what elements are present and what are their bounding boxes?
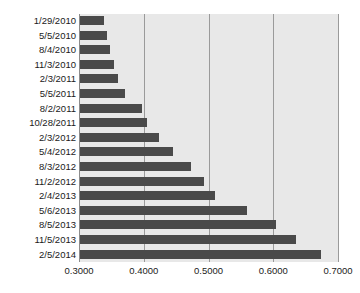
bar-chart: 1/29/20105/5/20108/4/201011/3/20102/3/20… bbox=[0, 0, 360, 293]
category-axis-label: 2/3/2011 bbox=[40, 73, 76, 85]
chart-title bbox=[0, 0, 360, 5]
bar bbox=[79, 162, 191, 171]
bar bbox=[79, 16, 104, 25]
bar bbox=[79, 235, 296, 244]
category-axis-label: 1/29/2010 bbox=[34, 15, 76, 27]
category-axis-label: 8/5/2013 bbox=[39, 219, 76, 231]
category-axis-label: 8/3/2012 bbox=[39, 161, 76, 173]
bar bbox=[79, 89, 125, 98]
gridline bbox=[338, 14, 339, 262]
category-axis-label: 8/4/2010 bbox=[39, 44, 76, 56]
bar bbox=[79, 74, 118, 83]
bar bbox=[79, 133, 159, 142]
bar bbox=[79, 147, 173, 156]
category-axis-label: 11/5/2013 bbox=[34, 234, 76, 246]
category-axis-label: 8/2/2011 bbox=[40, 103, 76, 115]
category-axis-label: 5/5/2010 bbox=[39, 30, 76, 42]
category-axis-label: 2/5/2014 bbox=[39, 249, 76, 261]
category-axis-label: 11/2/2012 bbox=[34, 176, 76, 188]
bar bbox=[79, 250, 321, 259]
category-axis-label: 10/28/2011 bbox=[29, 117, 76, 129]
value-axis-label: 0.4000 bbox=[129, 264, 158, 278]
category-axis: 1/29/20105/5/20108/4/201011/3/20102/3/20… bbox=[0, 14, 78, 262]
value-axis-label: 0.7000 bbox=[323, 264, 352, 278]
plot-area bbox=[79, 14, 338, 262]
value-axis-label: 0.6000 bbox=[259, 264, 288, 278]
bar bbox=[79, 220, 276, 229]
bar bbox=[79, 118, 147, 127]
bar bbox=[79, 191, 215, 200]
category-axis-label: 11/3/2010 bbox=[34, 59, 76, 71]
value-axis-label: 0.5000 bbox=[194, 264, 223, 278]
category-axis-label: 5/6/2013 bbox=[39, 205, 76, 217]
category-axis-label: 5/4/2012 bbox=[39, 146, 76, 158]
bar bbox=[79, 60, 114, 69]
bar bbox=[79, 31, 107, 40]
bar bbox=[79, 206, 247, 215]
bar bbox=[79, 177, 204, 186]
value-axis-baseline bbox=[79, 14, 80, 262]
value-axis-label: 0.3000 bbox=[64, 264, 93, 278]
value-axis: 0.30000.40000.50000.60000.7000 bbox=[0, 264, 360, 280]
category-axis-label: 2/4/2013 bbox=[39, 190, 76, 202]
category-axis-label: 2/3/2012 bbox=[39, 132, 76, 144]
bar bbox=[79, 45, 110, 54]
category-axis-label: 5/5/2011 bbox=[40, 88, 76, 100]
bar bbox=[79, 104, 142, 113]
